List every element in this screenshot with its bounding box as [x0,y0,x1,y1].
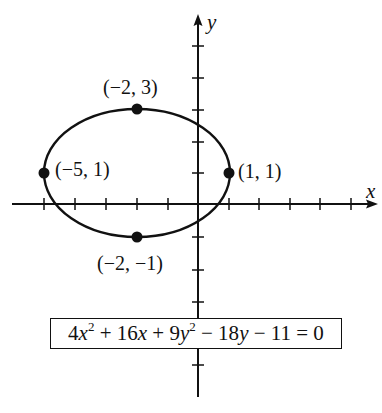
y-axis-label: y [207,12,216,33]
label-right-vertex: (1, 1) [238,161,281,181]
label-top-vertex: (−2, 3) [103,77,158,97]
point-bottom-vertex [132,232,143,243]
point-top-vertex [132,104,143,115]
label-left-vertex: (−5, 1) [55,159,110,179]
equation-box: 4x2 + 16x + 9y2 − 18y − 11 = 0 [50,318,342,349]
point-left-vertex [39,168,50,179]
label-bottom-vertex: (−2, −1) [97,253,163,273]
coordinate-plane [0,0,382,413]
x-axis-label: x [366,181,375,202]
equation-text: 4x2 + 16x + 9y2 − 18y − 11 = 0 [68,321,324,346]
point-right-vertex [224,168,235,179]
